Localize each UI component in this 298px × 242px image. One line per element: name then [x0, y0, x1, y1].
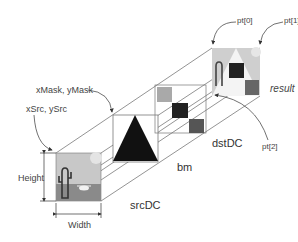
label-src-dc: srcDC: [130, 200, 161, 211]
label-dst-dc: dstDC: [212, 138, 243, 149]
label-src-origin: xSrc, ySrc: [26, 105, 67, 114]
label-result: result: [270, 84, 294, 94]
label-bm: bm: [177, 162, 192, 173]
label-height: Height: [18, 174, 44, 183]
label-pt1: pt[1]: [284, 17, 298, 25]
diagram-canvas: xMask, yMask xSrc, ySrc Height Width src…: [0, 0, 298, 242]
label-mask-origin: xMask, yMask: [36, 86, 93, 95]
bm-mask: [113, 115, 158, 162]
dst-dc-pattern: [155, 85, 206, 133]
label-width: Width: [68, 221, 91, 230]
result-image: [212, 47, 261, 96]
label-pt2: pt[2]: [262, 143, 278, 151]
label-pt0: pt[0]: [237, 17, 253, 25]
src-dc-image: [56, 152, 102, 201]
